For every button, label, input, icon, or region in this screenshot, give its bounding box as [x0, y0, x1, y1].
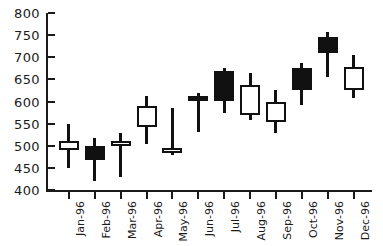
y-tick-mark	[48, 34, 55, 36]
x-tick-label: Feb-96	[100, 201, 113, 238]
y-tick-label: 500	[14, 138, 40, 153]
x-tick-label: Mar-96	[126, 201, 139, 239]
candle-body	[292, 68, 312, 90]
x-tick-mark	[301, 192, 303, 199]
x-tick-label: Jun-96	[203, 201, 216, 236]
candle-body	[240, 85, 260, 115]
y-tick-label: 800	[14, 6, 40, 21]
x-tick-label: Sep-96	[281, 201, 294, 240]
candle-body	[162, 148, 182, 153]
y-tick-label: 600	[14, 94, 40, 109]
x-tick-mark	[94, 192, 96, 199]
x-tick-mark	[146, 192, 148, 199]
candle-body	[344, 67, 364, 90]
x-tick-mark	[353, 192, 355, 199]
y-tick-label: 450	[14, 160, 40, 175]
x-tick-mark	[327, 192, 329, 199]
candle-body	[214, 71, 234, 101]
x-tick-mark	[275, 192, 277, 199]
y-tick-mark	[48, 123, 55, 125]
x-tick-mark	[249, 192, 251, 199]
x-tick-label: Jan-96	[74, 201, 87, 236]
candle-body	[137, 106, 157, 127]
x-tick-label: Apr-96	[152, 201, 165, 237]
x-tick-label: May-96	[177, 201, 190, 242]
x-tick-label: Jul-96	[229, 201, 242, 232]
candle-body	[318, 37, 338, 52]
candle-body	[111, 141, 131, 146]
candle-body	[188, 96, 208, 101]
y-tick-label: 650	[14, 72, 40, 87]
candle-body	[266, 102, 286, 123]
candlestick-chart: 800750700650600550500450400 Jan-96Feb-96…	[0, 0, 383, 246]
x-tick-mark	[197, 192, 199, 199]
y-tick-label: 750	[14, 28, 40, 43]
x-tick-label: Oct-96	[307, 201, 320, 238]
y-tick-mark	[48, 101, 55, 103]
x-tick-mark	[68, 192, 70, 199]
y-tick-mark	[48, 167, 55, 169]
x-tick-label: Dec-96	[359, 201, 372, 240]
x-tick-mark	[120, 192, 122, 199]
x-tick-mark	[171, 192, 173, 199]
y-tick-mark	[48, 78, 55, 80]
y-tick-mark	[48, 56, 55, 58]
x-tick-label: Nov-96	[333, 201, 346, 240]
candle-body	[59, 141, 79, 150]
y-tick-mark	[48, 145, 55, 147]
x-tick-label: Aug-96	[255, 201, 268, 240]
y-tick-label: 400	[14, 183, 40, 198]
x-tick-mark	[223, 192, 225, 199]
y-tick-label: 700	[14, 50, 40, 65]
y-tick-mark	[48, 12, 55, 14]
y-tick-label: 550	[14, 116, 40, 131]
y-axis-line	[46, 13, 48, 192]
candle-wick	[119, 133, 122, 176]
candle-body	[85, 146, 105, 160]
